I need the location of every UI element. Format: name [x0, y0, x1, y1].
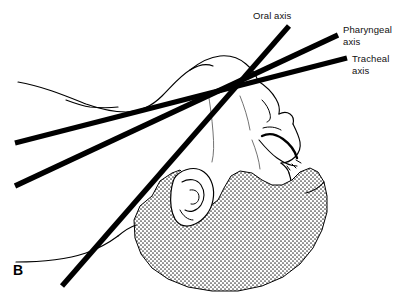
airway-axes-figure: Oral axis Pharyngealaxis Trachealaxis B [0, 0, 418, 302]
axis-label-oral: Oral axis [253, 10, 291, 22]
axis-label-pharyngeal-line1: Pharyngeal [343, 24, 392, 35]
axis-label-tracheal-line1: Tracheal [352, 53, 389, 64]
axis-label-tracheal: Trachealaxis [352, 53, 389, 76]
cheek-contours [208, 92, 260, 169]
axis-line-tracheal [15, 58, 347, 143]
axis-label-pharyngeal-line2: axis [343, 36, 360, 47]
panel-letter: B [13, 262, 23, 278]
axis-label-pharyngeal: Pharyngealaxis [343, 24, 392, 47]
closed-eye [259, 127, 301, 170]
axis-label-tracheal-line2: axis [352, 65, 369, 76]
brow-crease [262, 100, 270, 122]
axis-line-pharyngeal [15, 35, 338, 186]
